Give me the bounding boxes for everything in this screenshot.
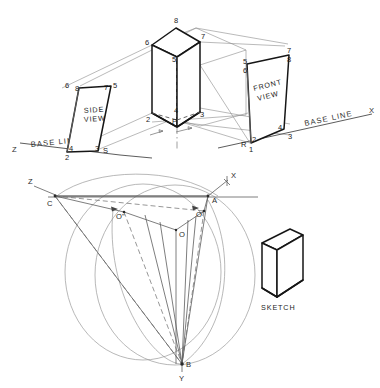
svg-text:7: 7 <box>104 83 108 92</box>
svg-text:7: 7 <box>201 32 205 41</box>
axonometric-triangle <box>55 196 208 364</box>
axonometric-vertex-o: O <box>179 230 185 239</box>
technical-drawing-canvas: Z BASE LINE BASE LINE X SIDE VIEW 6 8 7 … <box>0 0 380 388</box>
convergence-rays <box>55 196 208 364</box>
side-view-caption-line2: VIEW <box>84 113 107 124</box>
svg-text:5: 5 <box>172 55 176 64</box>
sketch-shape <box>262 229 303 297</box>
svg-text:2: 2 <box>146 115 150 124</box>
svg-text:6: 6 <box>243 66 247 75</box>
axonometric-axis-label-y: Y <box>179 374 184 383</box>
axonometric-vertex-b: B <box>186 360 191 369</box>
svg-text:5: 5 <box>113 81 117 90</box>
svg-text:3: 3 <box>288 132 292 141</box>
svg-text:5: 5 <box>243 57 247 66</box>
svg-text:2: 2 <box>252 135 256 144</box>
axonometric-axis-label-x: X <box>231 171 236 180</box>
svg-text:8: 8 <box>174 16 178 25</box>
svg-text:7: 7 <box>287 46 291 55</box>
svg-text:1: 1 <box>249 145 253 154</box>
svg-text:6: 6 <box>65 81 69 90</box>
axonometric-axis-label-z: Z <box>28 177 33 186</box>
axis-arrowheads <box>111 206 199 212</box>
sketch-caption: SKETCH <box>261 303 296 312</box>
svg-text:S: S <box>103 146 108 155</box>
svg-text:8: 8 <box>75 84 79 93</box>
svg-text:3: 3 <box>95 144 99 153</box>
axonometric-axis-ticks <box>34 176 230 372</box>
axonometric-vertex-o-double-prime: O'' <box>116 212 125 221</box>
construction-arcs <box>58 174 255 365</box>
isometric-axes <box>55 196 208 364</box>
base-line-right-text: BASE LINE <box>304 109 354 128</box>
direction-arrows <box>150 127 192 135</box>
svg-text:R: R <box>241 140 247 149</box>
svg-text:4: 4 <box>278 123 282 132</box>
base-line-left-axis-label: Z <box>12 145 18 154</box>
svg-text:P: P <box>172 117 177 126</box>
svg-text:4: 4 <box>174 106 178 115</box>
svg-text:2: 2 <box>65 153 69 162</box>
svg-text:3: 3 <box>200 110 204 119</box>
axonometric-vertex-o-prime: O' <box>196 210 204 219</box>
axonometric-vertex-c: C <box>47 199 53 208</box>
svg-text:6: 6 <box>145 38 149 47</box>
svg-text:4: 4 <box>69 144 73 153</box>
svg-text:8: 8 <box>287 55 291 64</box>
base-line-right-axis-label: X <box>369 106 375 115</box>
engineering-drawing-svg: Z BASE LINE BASE LINE X SIDE VIEW 6 8 7 … <box>0 0 380 388</box>
